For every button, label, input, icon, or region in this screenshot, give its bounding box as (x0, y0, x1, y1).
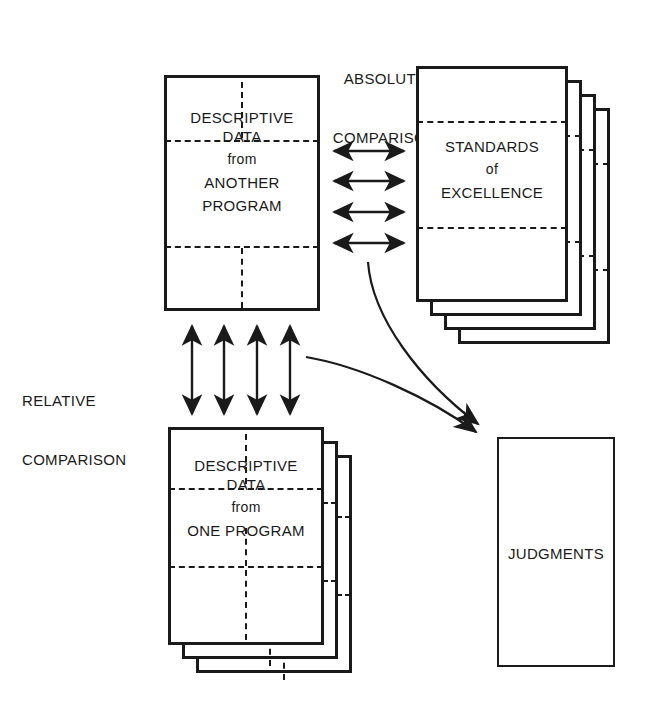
another-program-line5: PROGRAM (167, 196, 317, 215)
another-program-line1: DESCRIPTIVE (167, 108, 317, 127)
standards-line1: STANDARDS (419, 137, 565, 156)
one-program-divider-vertical-bottom (245, 570, 247, 640)
card-divider-horizontal-lower (165, 246, 319, 248)
standards-line3: EXCELLENCE (419, 183, 565, 202)
relative-comparison-label-line1: RELATIVE (22, 391, 172, 411)
standards-of-excellence-card[interactable]: STANDARDS of EXCELLENCE (416, 66, 568, 302)
relative-comparison-label: RELATIVE COMPARISON (22, 352, 172, 508)
another-program-line2: DATA (167, 127, 317, 146)
descriptive-data-one-program-card[interactable]: DESCRIPTIVE DATA from ONE PROGRAM (168, 427, 324, 645)
relative-comparison-label-line2: COMPARISON (22, 450, 172, 470)
standards-divider-horizontal-upper (417, 121, 567, 123)
vertical-double-arrow-group (192, 326, 290, 414)
one-program-line2: DATA (171, 475, 321, 494)
another-program-line4: ANOTHER (167, 173, 317, 192)
one-program-line4: ONE PROGRAM (171, 521, 321, 540)
standards-line2: of (419, 161, 565, 179)
curved-arrow-from-relative-comparison[interactable] (306, 357, 476, 432)
card-divider-vertical-bottom (241, 248, 243, 308)
another-program-line3: from (167, 151, 317, 169)
diagram-canvas: ABSOLUTE COMPARISON RELATIVE COMPARISON … (0, 0, 649, 706)
one-program-line3: from (171, 499, 321, 517)
judgments-card[interactable]: JUDGMENTS (497, 437, 615, 667)
one-program-divider-horizontal-lower (169, 566, 323, 568)
one-program-line1: DESCRIPTIVE (171, 456, 321, 475)
descriptive-data-another-program-card[interactable]: DESCRIPTIVE DATA from ANOTHER PROGRAM (164, 75, 320, 311)
standards-divider-horizontal-lower (417, 227, 567, 229)
judgments-line1: JUDGMENTS (499, 544, 613, 563)
